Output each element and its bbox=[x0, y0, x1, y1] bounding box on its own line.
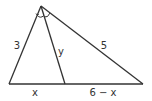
right-side-label: 5 bbox=[101, 41, 107, 51]
angle-arc-left bbox=[37, 15, 44, 17]
triangle-diagram: 3 y 5 x 6 − x bbox=[0, 0, 152, 101]
triangle-figure bbox=[0, 0, 152, 101]
base-left-label: x bbox=[32, 88, 38, 98]
angle-bisector-line bbox=[41, 6, 65, 84]
left-side-label: 3 bbox=[14, 41, 20, 51]
base-right-label: 6 − x bbox=[89, 88, 116, 98]
right-side-line bbox=[41, 6, 143, 84]
bisector-label: y bbox=[58, 47, 64, 57]
